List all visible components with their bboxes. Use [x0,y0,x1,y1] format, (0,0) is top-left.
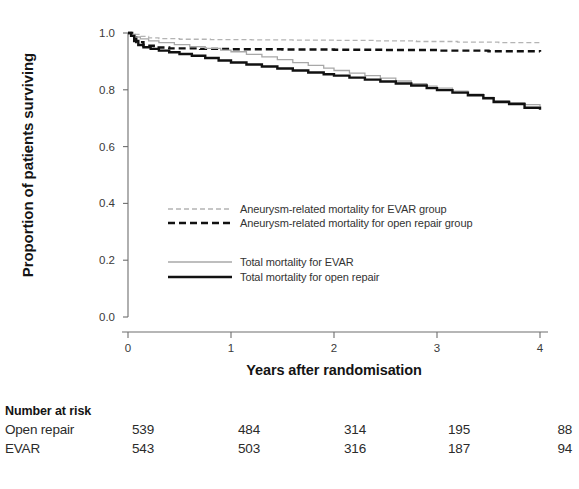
risk-value: 88 [528,422,572,437]
survival-chart-figure: Proportion of patients surviving 0.00.20… [0,0,579,489]
y-tick-label: 0.0 [99,311,115,323]
x-tick-label: 2 [331,342,337,354]
y-tick-label: 0.2 [99,254,115,266]
series-line-0 [128,33,540,43]
y-tick-label: 1.0 [99,27,115,39]
table-row: Open repair 539 484 314 195 88 [0,422,579,441]
risk-table-title: Number at risk [5,404,91,418]
risk-value: 543 [110,441,154,456]
series-line-1 [128,33,540,52]
risk-value: 503 [216,441,260,456]
y-tick-label: 0.4 [99,197,116,209]
risk-row-label: Open repair [5,422,74,437]
table-row: EVAR 543 503 316 187 94 [0,441,579,460]
legend-label-1: Aneurysm-related mortality for open repa… [240,217,472,229]
risk-value: 195 [426,422,470,437]
x-tick-label: 0 [125,342,131,354]
risk-row-label: EVAR [5,441,40,456]
x-tick-label: 4 [537,342,544,354]
x-axis-label: Years after randomisation [128,362,540,378]
y-tick-label: 0.6 [99,141,115,153]
legend-label-3: Total mortality for open repair [240,271,380,283]
legend-label-0: Aneurysm-related mortality for EVAR grou… [240,203,447,215]
legend-label-2: Total mortality for EVAR [240,256,354,268]
risk-value: 314 [322,422,366,437]
risk-value: 94 [528,441,572,456]
y-tick-label: 0.8 [99,84,115,96]
x-tick-label: 1 [228,342,234,354]
x-tick-label: 3 [434,342,440,354]
risk-value: 539 [110,422,154,437]
risk-value: 484 [216,422,260,437]
risk-value: 316 [322,441,366,456]
plot-area: 0.00.20.40.60.81.001234Aneurysm-related … [0,0,579,400]
risk-value: 187 [426,441,470,456]
